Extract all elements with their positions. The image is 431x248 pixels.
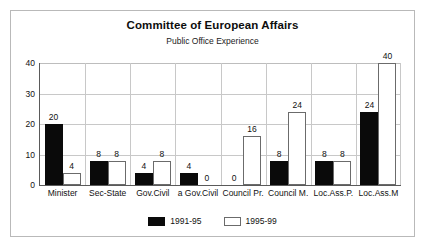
bar-group: 204Minister: [40, 63, 85, 185]
bar-value-label: 8: [96, 149, 101, 159]
bar[interactable]: [243, 136, 261, 185]
bar-value-label: 0: [232, 173, 237, 183]
x-axis-category-label: Gov.Civil: [136, 188, 169, 198]
plot-area: 010203040204Minister88Sec-State48Gov.Civ…: [39, 63, 401, 186]
bar-group: 88Sec-State: [85, 63, 130, 185]
x-axis-category-label: Loc.Ass.P.: [314, 188, 354, 198]
bar-value-label: 40: [383, 51, 392, 61]
bar[interactable]: [90, 161, 108, 185]
bar[interactable]: [63, 173, 81, 185]
legend-label: 1991-95: [170, 216, 201, 226]
bar[interactable]: [135, 173, 153, 185]
legend-item-1995-99: 1995-99: [224, 216, 277, 226]
bar-group: 88Loc.Ass.P.: [311, 63, 356, 185]
y-axis-tick-label: 40: [26, 58, 35, 68]
y-axis-tick-label: 20: [26, 119, 35, 129]
bar-value-label: 8: [277, 149, 282, 159]
x-axis-category-label: Council M.: [268, 188, 308, 198]
bar-group: 2440Loc.Ass.M: [356, 63, 401, 185]
bar-value-label: 0: [205, 173, 210, 183]
bar-value-label: 4: [69, 161, 74, 171]
x-axis-category-label: a Gov.Civil: [178, 188, 218, 198]
bar[interactable]: [153, 161, 171, 185]
bar-value-label: 8: [340, 149, 345, 159]
chart-subtitle: Public Office Experience: [11, 36, 414, 46]
x-axis-category-label: Loc.Ass.M: [359, 188, 399, 198]
bar-group: 48Gov.Civil: [130, 63, 175, 185]
bar-group: 40a Gov.Civil: [175, 63, 220, 185]
bar-value-label: 24: [365, 100, 374, 110]
bar[interactable]: [45, 124, 63, 185]
chart-title: Committee of European Affairs: [11, 19, 414, 31]
bar-group: 016Council Pr.: [221, 63, 266, 185]
bar[interactable]: [180, 173, 198, 185]
chart-legend: 1991-95 1995-99: [11, 216, 414, 226]
bar[interactable]: [378, 63, 396, 185]
bar-value-label: 16: [247, 124, 256, 134]
legend-item-1991-95: 1991-95: [148, 216, 201, 226]
legend-swatch-icon: [148, 217, 165, 226]
x-axis-category-label: Minister: [48, 188, 78, 198]
bar-value-label: 8: [159, 149, 164, 159]
bar[interactable]: [333, 161, 351, 185]
bar[interactable]: [108, 161, 126, 185]
x-axis-category-label: Council Pr.: [223, 188, 264, 198]
bar-group: 824Council M.: [266, 63, 311, 185]
chart-frame: Committee of European Affairs Public Off…: [10, 10, 415, 237]
y-axis-tick-label: 30: [26, 89, 35, 99]
bar[interactable]: [315, 161, 333, 185]
bar-value-label: 8: [322, 149, 327, 159]
bar[interactable]: [288, 112, 306, 185]
bar[interactable]: [360, 112, 378, 185]
legend-label: 1995-99: [246, 216, 277, 226]
bar-value-label: 4: [187, 161, 192, 171]
bar[interactable]: [270, 161, 288, 185]
y-axis-tick-label: 0: [30, 180, 35, 190]
legend-swatch-icon: [224, 217, 241, 226]
bar-value-label: 8: [114, 149, 119, 159]
bar-value-label: 20: [49, 112, 58, 122]
bar-value-label: 4: [141, 161, 146, 171]
bar-value-label: 24: [292, 100, 301, 110]
x-axis-category-label: Sec-State: [89, 188, 126, 198]
y-axis-tick-label: 10: [26, 150, 35, 160]
